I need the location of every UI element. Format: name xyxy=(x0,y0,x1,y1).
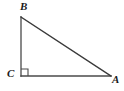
vertex-label-a: A xyxy=(112,74,119,85)
geometry-figure: B C A xyxy=(0,0,124,91)
vertex-label-b: B xyxy=(20,1,27,12)
right-angle-square-icon xyxy=(21,69,28,76)
hypotenuse-BA-line xyxy=(21,17,111,76)
triangle-drawing xyxy=(0,0,124,91)
vertex-label-c: C xyxy=(7,68,14,79)
